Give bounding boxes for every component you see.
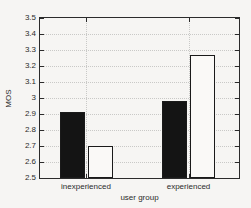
bar-open-white-bar	[88, 146, 113, 178]
y-tick-mark	[40, 66, 44, 67]
category-label: inexperienced	[51, 182, 121, 191]
x-tick-mark	[86, 18, 87, 22]
y-tick-mark	[235, 18, 239, 19]
y-tick-mark	[40, 18, 44, 19]
y-tick-label: 2.5	[13, 173, 36, 182]
bar-open-white-bar	[190, 55, 215, 178]
x-axis-label: user group	[39, 193, 240, 202]
y-tick-mark	[235, 178, 239, 179]
y-tick-label: 3.5	[13, 13, 36, 22]
y-tick-label: 3.3	[13, 45, 36, 54]
y-tick-mark	[235, 162, 239, 163]
y-tick-mark	[40, 34, 44, 35]
y-tick-mark	[235, 82, 239, 83]
y-tick-label: 2.7	[13, 141, 36, 150]
y-tick-mark	[40, 178, 44, 179]
y-tick-mark	[40, 98, 44, 99]
plot-area	[39, 17, 240, 179]
y-tick-mark	[235, 50, 239, 51]
y-gridline	[40, 34, 239, 35]
y-tick-mark	[40, 82, 44, 83]
x-tick-mark	[189, 18, 190, 22]
y-tick-mark	[235, 146, 239, 147]
y-tick-mark	[40, 114, 44, 115]
y-tick-label: 2.9	[13, 109, 36, 118]
y-tick-label: 3	[13, 93, 36, 102]
bar-chart-figure: MOS user group 2.52.62.72.82.933.13.23.3…	[0, 0, 251, 208]
y-tick-mark	[235, 114, 239, 115]
y-tick-mark	[40, 130, 44, 131]
y-tick-label: 3.4	[13, 29, 36, 38]
y-axis-label: MOS	[4, 79, 13, 119]
bar-filled-black-bar	[162, 101, 187, 178]
y-tick-label: 3.2	[13, 61, 36, 70]
bar-filled-black-bar	[60, 112, 85, 178]
y-tick-mark	[235, 66, 239, 67]
category-label: experienced	[154, 182, 224, 191]
y-tick-mark	[235, 98, 239, 99]
y-tick-mark	[40, 162, 44, 163]
y-tick-label: 2.8	[13, 125, 36, 134]
y-tick-mark	[40, 50, 44, 51]
y-tick-mark	[235, 130, 239, 131]
y-tick-mark	[40, 146, 44, 147]
y-tick-mark	[235, 34, 239, 35]
y-tick-label: 2.6	[13, 157, 36, 166]
y-tick-label: 3.1	[13, 77, 36, 86]
y-gridline	[40, 50, 239, 51]
